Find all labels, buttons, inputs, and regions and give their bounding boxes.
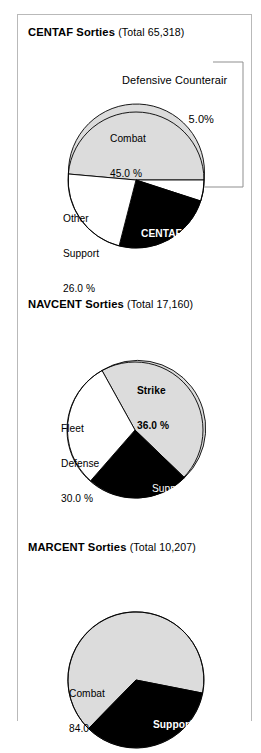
slice-label-combat-marcent-name: Combat bbox=[69, 688, 105, 700]
slice-label-combat-marcent-value: 84.0 % bbox=[69, 723, 105, 735]
pie-marcent bbox=[0, 0, 261, 753]
slice-label-support-marcent: Support 16.0 % bbox=[153, 696, 192, 753]
slice-label-support-marcent-name: Support bbox=[153, 719, 192, 731]
slice-label-combat-marcent: Combat 84.0 % bbox=[69, 665, 105, 753]
